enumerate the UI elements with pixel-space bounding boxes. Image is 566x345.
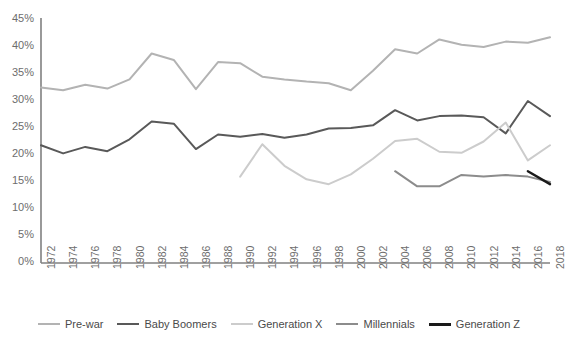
legend-swatch-icon: [336, 323, 358, 325]
x-tick-label: 1994: [288, 246, 300, 269]
x-tick-label: 2018: [554, 246, 566, 269]
y-tick-label: 45%: [0, 12, 34, 24]
y-tick-label: 5%: [0, 228, 34, 240]
legend-label: Pre-war: [65, 318, 104, 330]
x-tick-label: 1998: [333, 246, 345, 269]
legend-label: Millennials: [363, 318, 414, 330]
x-tick-label: 2010: [465, 246, 477, 269]
y-tick-label: 10%: [0, 201, 34, 213]
legend-item-millennials[interactable]: Millennials: [336, 318, 414, 330]
legend-item-baby-boomers[interactable]: Baby Boomers: [117, 318, 216, 330]
y-tick-label: 0%: [0, 255, 34, 267]
legend-swatch-icon: [231, 323, 253, 325]
y-tick-label: 35%: [0, 66, 34, 78]
legend-swatch-icon: [429, 323, 451, 326]
legend-label: Generation Z: [456, 318, 520, 330]
x-tick-label: 2012: [488, 246, 500, 269]
x-tick-label: 2006: [421, 246, 433, 269]
y-tick-label: 20%: [0, 147, 34, 159]
x-tick-label: 1978: [111, 246, 123, 269]
legend-item-generation-x[interactable]: Generation X: [231, 318, 323, 330]
x-tick-label: 1980: [134, 246, 146, 269]
x-tick-label: 2014: [510, 246, 522, 269]
x-tick-label: 1972: [45, 246, 57, 269]
y-tick-label: 25%: [0, 120, 34, 132]
x-tick-label: 2000: [355, 246, 367, 269]
x-tick-label: 1996: [311, 246, 323, 269]
x-tick-label: 1990: [244, 246, 256, 269]
x-tick-label: 1992: [266, 246, 278, 269]
x-tick-label: 1976: [89, 246, 101, 269]
x-tick-label: 1988: [222, 246, 234, 269]
series-line-pre-war: [41, 37, 550, 90]
series-lines: [41, 37, 550, 186]
legend-item-generation-z[interactable]: Generation Z: [429, 318, 520, 330]
axis-lines: [41, 18, 550, 263]
legend-label: Generation X: [258, 318, 323, 330]
series-line-millennials: [395, 171, 550, 186]
x-tick-label: 1974: [67, 246, 79, 269]
x-tick-label: 2016: [532, 246, 544, 269]
x-tick-label: 1984: [178, 246, 190, 269]
y-tick-label: 30%: [0, 93, 34, 105]
x-tick-label: 2008: [443, 246, 455, 269]
y-tick-label: 15%: [0, 174, 34, 186]
legend-label: Baby Boomers: [144, 318, 216, 330]
x-tick-label: 1982: [156, 246, 168, 269]
x-tick-label: 1986: [200, 246, 212, 269]
legend-swatch-icon: [117, 323, 139, 325]
legend-item-pre-war[interactable]: Pre-war: [38, 318, 104, 330]
x-tick-label: 2002: [377, 246, 389, 269]
y-tick-label: 40%: [0, 39, 34, 51]
x-tick-label: 2004: [399, 246, 411, 269]
legend-swatch-icon: [38, 323, 60, 325]
chart-legend: Pre-warBaby BoomersGeneration XMillennia…: [0, 318, 558, 330]
